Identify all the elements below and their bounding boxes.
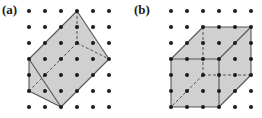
grid-dot: [43, 89, 47, 93]
grid-dot: [91, 73, 95, 77]
grid-dot: [169, 57, 173, 61]
grid-dot: [217, 9, 221, 13]
dot-grid-diagrams: [0, 0, 262, 118]
grid-dot: [75, 41, 79, 45]
grid-dot: [233, 105, 237, 109]
grid-dot: [249, 89, 253, 93]
grid-dot: [185, 25, 189, 29]
grid-dot: [59, 57, 63, 61]
grid-dot: [91, 41, 95, 45]
grid-dot: [75, 89, 79, 93]
grid-dot: [233, 25, 237, 29]
grid-dot: [249, 73, 253, 77]
grid-dot: [169, 73, 173, 77]
grid-dot: [75, 57, 79, 61]
grid-dot: [233, 57, 237, 61]
grid-dot: [27, 89, 31, 93]
grid-dot: [233, 9, 237, 13]
grid-dot: [185, 9, 189, 13]
grid-dot: [75, 9, 79, 13]
grid-dot: [59, 73, 63, 77]
grid-dot: [91, 57, 95, 61]
grid-dot: [43, 73, 47, 77]
grid-dot: [217, 73, 221, 77]
grid-dot: [169, 9, 173, 13]
grid-dot: [43, 57, 47, 61]
grid-dot: [201, 105, 205, 109]
grid-dot: [43, 25, 47, 29]
grid-dot: [201, 57, 205, 61]
shape-fill-a: [29, 11, 109, 107]
grid-dot: [107, 57, 111, 61]
grid-dot: [91, 9, 95, 13]
grid-dot: [59, 9, 63, 13]
grid-dot: [201, 25, 205, 29]
grid-dot: [217, 89, 221, 93]
grid-dot: [27, 41, 31, 45]
grid-dot: [201, 89, 205, 93]
grid-dot: [217, 25, 221, 29]
grid-dot: [201, 73, 205, 77]
grid-dot: [59, 41, 63, 45]
grid-dot: [107, 73, 111, 77]
grid-dot: [107, 105, 111, 109]
grid-dot: [27, 105, 31, 109]
grid-dot: [91, 25, 95, 29]
grid-dot: [169, 89, 173, 93]
grid-dot: [27, 25, 31, 29]
grid-dot: [233, 73, 237, 77]
grid-dot: [217, 57, 221, 61]
grid-dot: [217, 41, 221, 45]
grid-dot: [185, 73, 189, 77]
grid-dot: [91, 105, 95, 109]
grid-dot: [75, 25, 79, 29]
grid-dot: [43, 105, 47, 109]
grid-dot: [249, 9, 253, 13]
grid-dot: [201, 41, 205, 45]
grid-dot: [185, 105, 189, 109]
grid-dot: [249, 25, 253, 29]
grid-dot: [27, 73, 31, 77]
grid-dot: [249, 105, 253, 109]
grid-dot: [169, 105, 173, 109]
grid-dot: [75, 73, 79, 77]
figure-b: [169, 9, 253, 109]
grid-dot: [43, 9, 47, 13]
grid-dot: [91, 89, 95, 93]
grid-dot: [59, 25, 63, 29]
grid-dot: [169, 41, 173, 45]
grid-dot: [107, 9, 111, 13]
grid-dot: [27, 9, 31, 13]
grid-dot: [249, 41, 253, 45]
grid-dot: [233, 89, 237, 93]
grid-dot: [107, 41, 111, 45]
grid-dot: [185, 89, 189, 93]
grid-dot: [107, 25, 111, 29]
figure-a: [27, 9, 111, 109]
grid-dot: [201, 9, 205, 13]
grid-dot: [185, 57, 189, 61]
grid-dot: [59, 105, 63, 109]
grid-dot: [27, 57, 31, 61]
grid-dot: [185, 41, 189, 45]
grid-dot: [43, 41, 47, 45]
grid-dot: [233, 41, 237, 45]
grid-dot: [249, 57, 253, 61]
grid-dot: [217, 105, 221, 109]
grid-dot: [59, 89, 63, 93]
grid-dot: [169, 25, 173, 29]
grid-dot: [75, 105, 79, 109]
grid-dot: [107, 89, 111, 93]
